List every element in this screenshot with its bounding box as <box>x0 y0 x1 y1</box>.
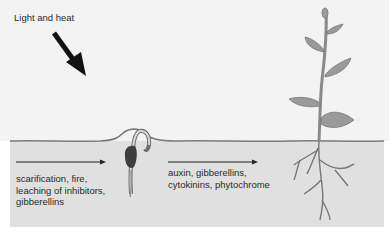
label-line: cytokinins, phytochrome <box>168 179 298 191</box>
label-line: scarification, fire, <box>16 173 136 185</box>
arrow-right-icon <box>168 160 258 165</box>
arrow-right-icon <box>16 160 106 165</box>
soil-surface-line <box>10 129 384 141</box>
growth-regulators-label: auxin, gibberellins, cytokinins, phytoch… <box>168 167 298 190</box>
light-and-heat-label: Light and heat <box>14 12 74 24</box>
label-line: leaching of inhibitors, <box>16 185 136 197</box>
diagram-canvas: Light and heat scarification, fire, leac… <box>0 0 389 232</box>
label-line: gibberellins <box>16 196 136 208</box>
label-line: auxin, gibberellins, <box>168 167 298 179</box>
germination-trigger-label: scarification, fire, leaching of inhibit… <box>16 173 136 208</box>
plant-with-roots-icon <box>289 8 354 220</box>
arrow-down-right-icon <box>54 33 86 76</box>
